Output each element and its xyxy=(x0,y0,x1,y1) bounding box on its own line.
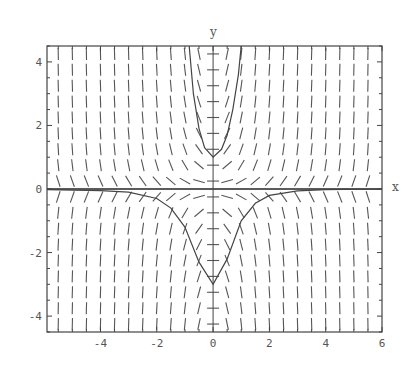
y-tick-label: 4 xyxy=(35,56,42,69)
x-tick-label: 6 xyxy=(379,337,386,350)
x-tick-label: -4 xyxy=(94,337,108,350)
y-tick-label: 0 xyxy=(35,183,42,196)
tick-labels: -4-20246-4-2024 xyxy=(29,56,386,350)
axes xyxy=(47,46,382,332)
y-tick-label: 2 xyxy=(35,119,42,132)
slope-field-chart: -4-20246-4-2024 x y xyxy=(0,0,415,370)
x-tick-label: 2 xyxy=(266,337,273,350)
y-axis-label: y xyxy=(209,25,217,39)
y-tick-label: -4 xyxy=(29,310,43,323)
x-tick-label: 0 xyxy=(210,337,217,350)
y-tick-label: -2 xyxy=(29,247,42,260)
x-axis-label: x xyxy=(392,180,399,194)
x-tick-label: -2 xyxy=(150,337,163,350)
x-tick-label: 4 xyxy=(322,337,329,350)
